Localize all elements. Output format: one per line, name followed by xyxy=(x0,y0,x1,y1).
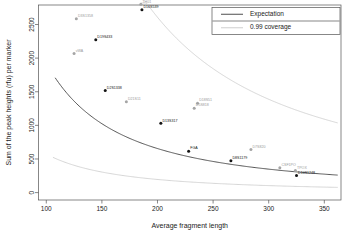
x-tick-label: 350 xyxy=(319,205,330,212)
legend-label-0: Expectation xyxy=(250,10,284,18)
x-tick-label: 300 xyxy=(263,205,274,212)
data-point-label: TPOX xyxy=(297,166,307,170)
curve-expectation xyxy=(55,78,337,175)
data-point-label: D5S818 xyxy=(196,103,209,107)
y-axis: 05001000150020002500 xyxy=(28,17,38,195)
y-tick-label: 0 xyxy=(28,190,35,194)
x-axis: 100150200250300350 xyxy=(41,200,330,212)
data-point-label: FGA xyxy=(190,146,198,150)
legend-label-1: 0.99 coverage xyxy=(250,23,292,31)
data-point-label: D21S11 xyxy=(128,97,141,101)
data-point-label: D13S317 xyxy=(162,119,177,123)
data-point-label: vWA xyxy=(76,49,84,53)
x-tick-label: 250 xyxy=(208,205,219,212)
data-point-label: TH01 xyxy=(142,0,151,4)
data-point-label: D2S1338 xyxy=(107,86,122,90)
data-point-label: D7S820 xyxy=(253,145,266,149)
data-point-label: D16S539 xyxy=(144,5,159,9)
x-axis-title: Average fragment length xyxy=(151,222,228,230)
data-point-label: D19S433 xyxy=(97,35,112,39)
y-axis-title: Sum of the peak heights (rfu) per marker xyxy=(5,39,13,166)
x-tick-label: 200 xyxy=(152,205,163,212)
y-tick-label: 1000 xyxy=(28,118,35,133)
curve-0-99-coverage-lower xyxy=(53,157,338,187)
x-tick-label: 150 xyxy=(96,205,107,212)
data-point-label: CSF1PO xyxy=(281,163,296,167)
data-point-label: D3S1358 xyxy=(78,14,93,18)
x-tick-label: 100 xyxy=(41,205,52,212)
y-tick-label: 2500 xyxy=(28,17,35,32)
data-point-label: D8S1179 xyxy=(232,156,247,160)
legend: Expectation0.99 coverage xyxy=(212,8,340,35)
data-point-label: D10S1248 xyxy=(298,171,315,175)
y-tick-label: 2000 xyxy=(28,51,35,66)
data-point-label: D18S51 xyxy=(199,98,212,102)
chart-figure: D3S1358D19S433vWATH01D16S539D2S1338D21S1… xyxy=(0,0,357,237)
y-tick-label: 500 xyxy=(28,153,35,164)
y-tick-label: 1500 xyxy=(28,84,35,99)
scatter-plot: D3S1358D19S433vWATH01D16S539D2S1338D21S1… xyxy=(0,0,357,237)
